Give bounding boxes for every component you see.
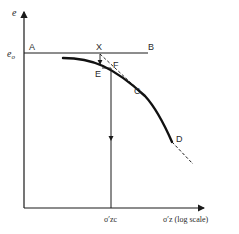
point-x-label: X xyxy=(96,42,102,52)
point-d-label: D xyxy=(176,134,183,144)
point-c-label: C xyxy=(134,86,141,96)
point-e-label: E xyxy=(95,69,101,79)
y-axis-label: e xyxy=(12,7,17,18)
eo-label: eo xyxy=(7,48,15,61)
down-arrow-icon xyxy=(109,136,114,141)
point-a-label: A xyxy=(29,42,35,52)
curve-extension xyxy=(172,142,193,164)
x-axis-label: σ′z (log scale) xyxy=(163,215,208,224)
consolidation-curve xyxy=(63,58,172,142)
consolidation-diagram: e eo A X B E F C D σ′zc σ′z (log scale) xyxy=(0,0,239,234)
sigma-zc-label: σ′zc xyxy=(104,215,118,224)
point-b-label: B xyxy=(148,42,154,52)
point-f-label: F xyxy=(113,60,119,70)
